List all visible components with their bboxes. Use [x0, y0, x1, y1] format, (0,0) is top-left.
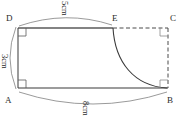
dimension-arc-top	[19, 18, 112, 26]
right-angle-marker-D	[18, 28, 26, 36]
vertex-label-A: A	[5, 96, 12, 105]
dimension-label-bottom: 8cm	[81, 101, 90, 116]
dimension-label-left: 3cm	[0, 54, 9, 69]
vertex-label-D: D	[6, 14, 13, 23]
curve-EB	[113, 28, 167, 88]
vertex-label-E: E	[112, 14, 118, 23]
geometry-figure: D E C A B 5cm 3cm 8cm	[0, 0, 180, 131]
right-angle-marker-B	[160, 80, 168, 88]
dimension-arc-left	[10, 27, 16, 89]
right-angle-marker-A	[18, 80, 26, 88]
vertex-label-B: B	[167, 96, 173, 105]
dimension-label-top: 5cm	[60, 1, 69, 16]
dimension-arc-bottom	[19, 92, 167, 104]
vertex-label-C: C	[170, 14, 176, 23]
right-angle-marker-C	[160, 28, 168, 36]
